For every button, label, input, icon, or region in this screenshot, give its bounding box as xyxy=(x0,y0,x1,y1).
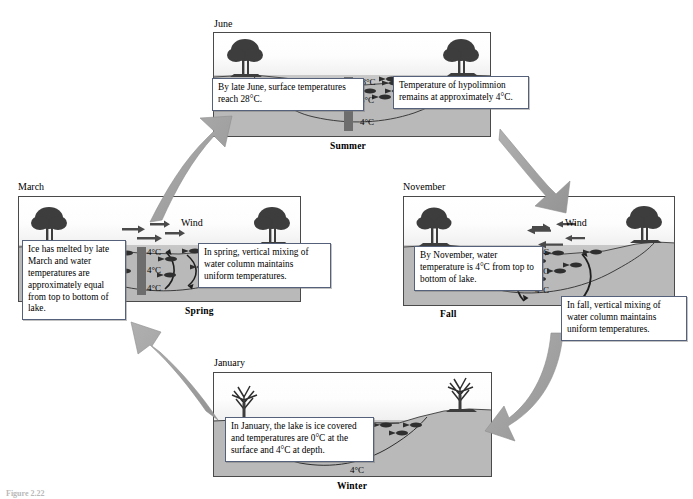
arrow-winter-to-spring xyxy=(131,322,218,420)
wind-label-fall: Wind xyxy=(565,217,587,228)
callout-fall-left: By November, water temperature is 4°C fr… xyxy=(414,246,543,291)
callout-summer-right: Temperature of hypolimnion remains at ap… xyxy=(393,76,529,109)
temp-spring-1: 4°C xyxy=(147,265,161,275)
callout-fall-right: In fall, vertical mixing of water column… xyxy=(561,296,687,341)
temp-winter-2: 4°C xyxy=(350,465,364,475)
callout-summer-left: By late June, surface temperatures reach… xyxy=(212,78,364,111)
callout-winter-left: In January, the lake is ice covered and … xyxy=(225,417,374,462)
arrow-spring-to-summer xyxy=(150,116,232,222)
arrow-summer-to-fall xyxy=(499,129,570,213)
callout-spring-left: Ice has melted by late March and water t… xyxy=(22,240,126,320)
temp-spring-2: 4°C xyxy=(147,283,161,293)
temp-summer-2: 4°C xyxy=(360,117,374,127)
arrow-fall-to-winter xyxy=(485,333,563,441)
callout-spring-right: In spring, vertical mixing of water colu… xyxy=(198,243,331,288)
lake-seasonal-cycle-diagram: June xyxy=(0,0,693,499)
wind-label-spring: Wind xyxy=(181,217,203,228)
temp-spring-0: 4°C xyxy=(147,247,161,257)
